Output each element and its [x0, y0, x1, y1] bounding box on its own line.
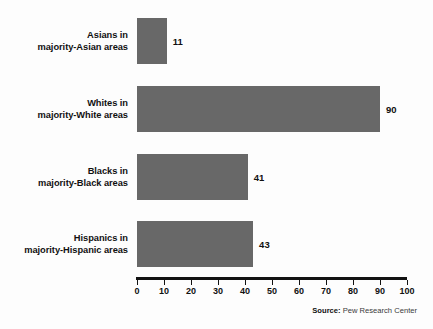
source-note: Source: Pew Research Center: [312, 306, 417, 315]
bar-row: Whites in majority-White areas 90: [0, 86, 433, 132]
category-label-line2: majority-White areas: [38, 109, 128, 122]
plot-area: Asians in majority-Asian areas 11 Whites…: [0, 0, 433, 329]
bar-blacks[interactable]: [137, 154, 248, 200]
x-axis-tick: [137, 280, 138, 285]
x-axis-tick: [353, 280, 354, 285]
bar-value-label: 43: [259, 221, 270, 267]
category-label: Asians in majority-Asian areas: [10, 18, 128, 64]
bar-hispanics[interactable]: [137, 221, 253, 267]
category-label-line2: majority-Asian areas: [38, 41, 128, 54]
category-label-line2: majority-Black areas: [38, 177, 128, 190]
x-axis-tick: [245, 280, 246, 285]
category-label-line2: majority-Hispanic areas: [24, 244, 128, 257]
source-text: Pew Research Center: [343, 306, 417, 315]
x-axis-tick: [407, 280, 408, 285]
bar-asians[interactable]: [137, 18, 167, 64]
x-axis-tick: [272, 280, 273, 285]
bar-row: Hispanics in majority-Hispanic areas 43: [0, 221, 433, 267]
bar-row: Asians in majority-Asian areas 11: [0, 18, 433, 64]
x-axis-tick: [191, 280, 192, 285]
bar-value-label: 41: [254, 154, 265, 200]
bar-value-label: 90: [386, 86, 397, 132]
x-axis-tick-label: 100: [387, 286, 427, 296]
category-label: Whites in majority-White areas: [10, 86, 128, 132]
bar-row: Blacks in majority-Black areas 41: [0, 154, 433, 200]
bar-value-label: 11: [173, 18, 183, 64]
bar-chart: Asians in majority-Asian areas 11 Whites…: [0, 0, 433, 329]
x-axis-tick: [326, 280, 327, 285]
category-label-line1: Whites in: [87, 97, 128, 110]
x-axis-tick: [218, 280, 219, 285]
category-label-line1: Blacks in: [88, 165, 128, 178]
x-axis-tick: [299, 280, 300, 285]
source-prefix: Source:: [312, 306, 340, 315]
category-label-line1: Asians in: [87, 29, 128, 42]
x-axis-tick: [164, 280, 165, 285]
x-axis-tick: [380, 280, 381, 285]
category-label: Hispanics in majority-Hispanic areas: [10, 221, 128, 267]
category-label-line1: Hispanics in: [74, 232, 128, 245]
bar-whites[interactable]: [137, 86, 380, 132]
category-label: Blacks in majority-Black areas: [10, 154, 128, 200]
